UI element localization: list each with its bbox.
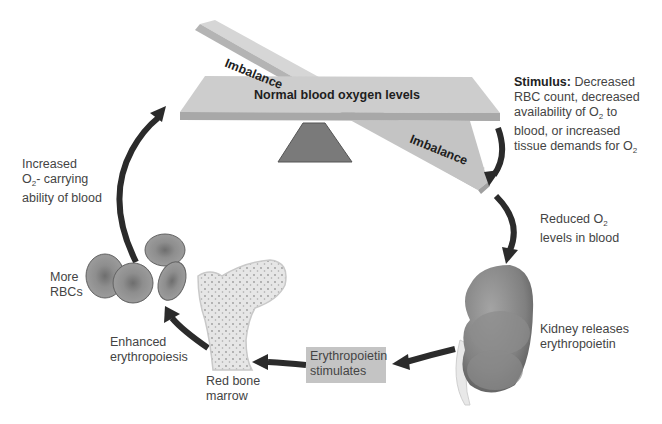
erythropoiesis-line1: Enhanced	[110, 335, 188, 350]
erythropoiesis-line2: erythropoiesis	[110, 350, 188, 365]
increased-line2-post: - carrying	[36, 172, 88, 186]
increased-line1: Increased	[22, 157, 102, 172]
kidney-line1: Kidney releases	[540, 322, 629, 337]
stimulus-line4: blood, or increased	[514, 124, 640, 139]
increased-o2-text: Increased O2- carrying ability of blood	[22, 157, 102, 206]
erythropoietin-box: Erythropoietin stimulates	[306, 347, 386, 383]
reduced-line2: levels in blood	[540, 231, 619, 246]
stimulus-text: Stimulus: Decreased RBC count, decreased…	[514, 75, 640, 158]
reduced-line1: Reduced O	[540, 212, 603, 226]
arrow-reduced-o2	[496, 196, 514, 250]
normal-level-label: Normal blood oxygen levels	[254, 88, 420, 102]
reduced-o2-text: Reduced O2 levels in blood	[540, 212, 619, 246]
stimulus-line3: availability of O	[514, 105, 599, 119]
red-bone-marrow-text: Red bone marrow	[206, 374, 260, 404]
red-bone-marrow-bone	[198, 260, 286, 370]
stimulus-line3-post: to	[603, 105, 617, 119]
rbcs-line1: More	[50, 270, 83, 285]
stimulus-title: Stimulus:	[514, 75, 571, 89]
stimulus-line2: RBC count, decreased	[514, 90, 640, 105]
erythropoiesis-text: Enhanced erythropoiesis	[110, 335, 188, 365]
arrow-stimulus	[494, 128, 502, 175]
red-blood-cells	[86, 234, 191, 304]
arrow-epo-to-marrow	[268, 362, 306, 365]
fulcrum	[278, 123, 352, 162]
marrow-line2: marrow	[206, 389, 260, 404]
epo-line1: Erythropoietin	[310, 349, 382, 364]
stimulus-line5: tissue demands for O	[514, 139, 633, 153]
more-rbcs-text: More RBCs	[50, 270, 83, 300]
kidney-line2: erythropoietin	[540, 337, 629, 352]
rbcs-line2: RBCs	[50, 285, 83, 300]
arrow-kidney-to-epo	[406, 349, 455, 362]
increased-line3: ability of blood	[22, 191, 102, 206]
increased-line2: O	[22, 172, 32, 186]
epo-line2: stimulates	[310, 364, 382, 379]
marrow-line1: Red bone	[206, 374, 260, 389]
stimulus-line1: Decreased	[571, 75, 635, 89]
subscript: 2	[603, 219, 607, 228]
subscript: 2	[633, 146, 637, 155]
kidney	[456, 265, 533, 405]
kidney-text: Kidney releases erythropoietin	[540, 322, 629, 352]
